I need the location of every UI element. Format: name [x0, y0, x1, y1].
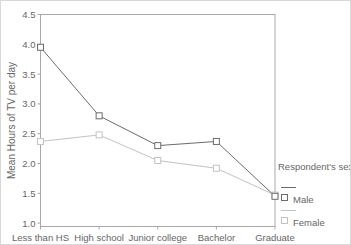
- legend-entry-female: Female: [281, 214, 351, 226]
- female-marker-sample: [281, 217, 288, 224]
- x-tick-label: High school: [74, 232, 124, 243]
- data-point-marker-male: [96, 113, 102, 119]
- male-marker-sample: [281, 194, 288, 201]
- legend-entry-male: Male: [281, 191, 351, 203]
- y-tick-label: 3.5: [22, 69, 35, 80]
- data-point-marker-male: [213, 138, 219, 144]
- data-point-marker-female: [213, 165, 219, 171]
- male-line-sample: [281, 187, 296, 188]
- y-tick-label: 1.0: [22, 218, 35, 229]
- y-axis-title: Mean Hours of TV per day: [6, 62, 17, 179]
- data-point-marker-male: [155, 143, 161, 149]
- female-line-sample: [281, 210, 296, 211]
- x-tick-label: Junior college: [128, 232, 187, 243]
- y-tick-label: 4.5: [22, 9, 35, 20]
- legend-title: Respondent's sex: [278, 161, 351, 173]
- legend: Respondent's sex Male Female: [278, 161, 351, 226]
- data-point-marker-male: [38, 44, 44, 50]
- data-point-marker-female: [96, 132, 102, 138]
- data-point-marker-female: [38, 138, 44, 144]
- chart-container: 4.54.03.53.02.52.01.51.0Less than HSHigh…: [0, 0, 351, 245]
- x-tick-label: Less than HS: [12, 232, 69, 243]
- y-tick-label: 1.5: [22, 188, 35, 199]
- series-line-male: [41, 47, 276, 196]
- y-tick-label: 4.0: [22, 39, 35, 50]
- x-tick-label: Bachelor: [198, 232, 236, 243]
- y-tick-label: 2.0: [22, 158, 35, 169]
- y-tick-label: 3.0: [22, 98, 35, 109]
- data-point-marker-female: [155, 158, 161, 164]
- legend-label-female: Female: [293, 217, 325, 229]
- x-tick-label: Graduate: [255, 232, 295, 243]
- plot-frame: [41, 15, 276, 227]
- legend-label-male: Male: [293, 194, 314, 206]
- y-tick-label: 2.5: [22, 128, 35, 139]
